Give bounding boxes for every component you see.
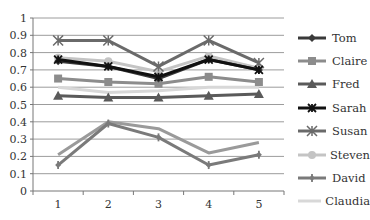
legend-item-sarah: Sarah: [296, 96, 370, 119]
legend-swatch-icon: [296, 125, 328, 137]
series-susan: [53, 35, 264, 71]
y-tick-label: 0.3: [10, 133, 28, 146]
legend-item-susan: Susan: [296, 120, 370, 143]
legend-swatch-icon: [296, 149, 326, 161]
y-tick-label: 0.5: [10, 99, 28, 112]
x-tick-label: 1: [55, 198, 62, 211]
legend-item-ben: Ben: [296, 213, 370, 220]
legend-label: Steven: [330, 148, 370, 162]
legend-label: Sarah: [332, 101, 367, 115]
legend-item-claudia: Claudia: [296, 190, 370, 213]
y-tick-label: 0: [20, 185, 27, 198]
x-tick-label: 4: [205, 198, 212, 211]
legend-item-fred: Fred: [296, 73, 370, 96]
legend-label: Claire: [332, 54, 367, 68]
legend-swatch-icon: [296, 102, 328, 114]
y-tick-label: 0.2: [10, 150, 28, 163]
legend-item-david: David: [296, 166, 370, 189]
series-claudia: [58, 87, 259, 92]
y-tick-label: 0.6: [10, 81, 28, 94]
y-tick-label: 0.1: [10, 168, 28, 181]
y-tick-label: 0.9: [10, 29, 28, 42]
legend-label: Tom: [332, 31, 357, 45]
x-tick-label: 2: [105, 198, 112, 211]
legend-label: Claudia: [325, 194, 370, 208]
legend-label: David: [332, 171, 366, 185]
legend-swatch-icon: [296, 55, 328, 67]
y-tick-label: 0.4: [10, 116, 28, 129]
x-axis-ticks: 12345: [33, 191, 284, 211]
legend-swatch-icon: [296, 219, 328, 220]
series-lines: [53, 35, 264, 169]
y-tick-label: 1: [20, 12, 27, 25]
legend-item-claire: Claire: [296, 49, 370, 72]
x-tick-label: 3: [155, 198, 162, 211]
legend-item-tom: Tom: [296, 26, 370, 49]
y-axis-ticks: 00.10.20.30.40.50.60.70.80.91: [10, 12, 34, 198]
legend-label: Ben: [332, 218, 355, 220]
legend-swatch-icon: [296, 195, 321, 207]
legend-swatch-icon: [296, 78, 328, 90]
legend-item-steven: Steven: [296, 143, 370, 166]
x-tick-label: 5: [255, 198, 262, 211]
y-tick-label: 0.8: [10, 47, 28, 60]
legend-swatch-icon: [296, 32, 328, 44]
legend-label: Fred: [332, 77, 360, 91]
legend-label: Susan: [332, 124, 367, 138]
legend-swatch-icon: [296, 172, 328, 184]
series-david: [55, 120, 262, 170]
y-tick-label: 0.7: [10, 64, 28, 77]
legend: TomClaireFredSarahSusanStevenDavidClaudi…: [296, 26, 370, 220]
